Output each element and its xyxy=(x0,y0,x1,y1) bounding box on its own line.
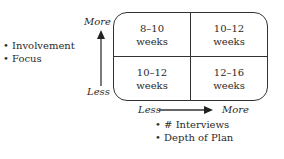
y-axis-arrow-icon xyxy=(96,30,106,86)
x-axis-more-label: More xyxy=(222,104,249,115)
cell-top-left: 8–10 weeks xyxy=(114,13,190,56)
y-factor-focus: Focus xyxy=(3,52,75,65)
cell-bottom-right: 12–16 weeks xyxy=(191,57,267,100)
x-factor-depth-of-plan: Depth of Plan xyxy=(155,131,233,144)
cell-top-right: 10–12 weeks xyxy=(191,13,267,56)
y-axis-less-label: Less xyxy=(87,86,110,97)
quadrant-grid: 8–10 weeks 10–12 weeks 10–12 weeks 12–16… xyxy=(113,12,268,101)
cell-bottom-left: 10–12 weeks xyxy=(114,57,190,100)
y-axis-more-label: More xyxy=(84,16,111,27)
x-axis-factors: # Interviews Depth of Plan xyxy=(155,118,233,144)
x-axis-less-label: Less xyxy=(138,104,161,115)
x-factor-interviews: # Interviews xyxy=(155,118,233,131)
y-axis-factors: Involvement Focus xyxy=(3,39,75,65)
x-axis-arrow-icon xyxy=(159,105,213,115)
y-factor-involvement: Involvement xyxy=(3,39,75,52)
